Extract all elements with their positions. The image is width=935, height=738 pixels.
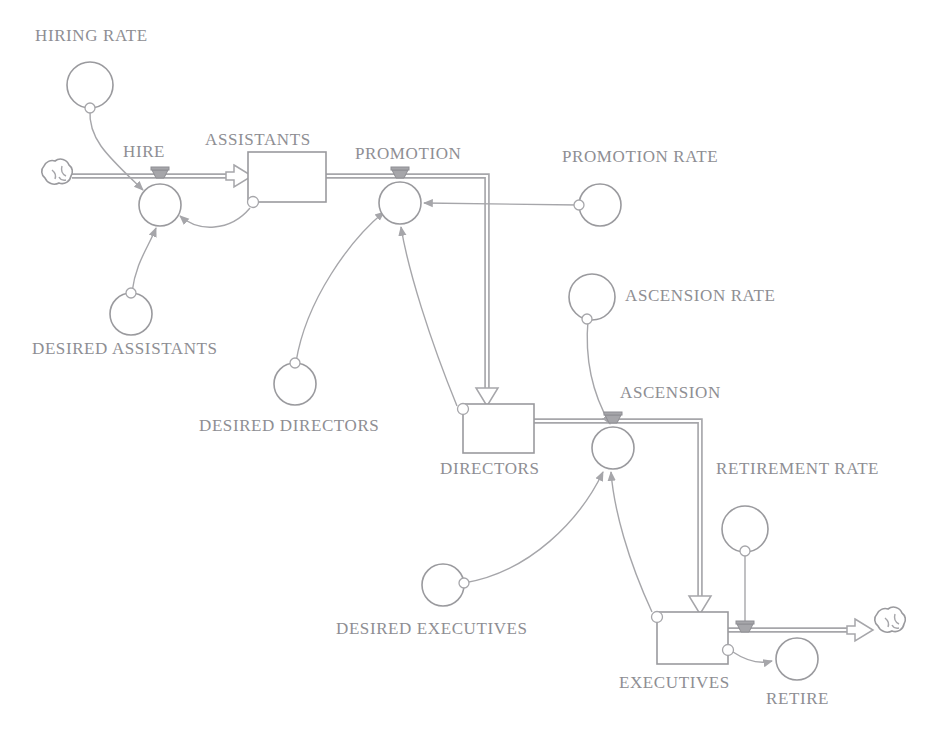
converter-port-desired-assistants	[126, 288, 136, 298]
flow-label-hire: HIRE	[123, 142, 165, 161]
connector-desired-directors-to-promotion	[296, 212, 384, 362]
converter-port-hiring-rate	[85, 103, 95, 113]
converter-label-retirement-rate: RETIREMENT RATE	[716, 459, 879, 478]
stock-directors[interactable]: DIRECTORS	[440, 404, 540, 478]
converter-port-promotion-rate	[574, 200, 584, 210]
converter-label-ascension-rate: ASCENSION RATE	[625, 286, 776, 305]
converter-label-hiring-rate: HIRING RATE	[35, 26, 148, 45]
converter-label-desired-assistants: DESIRED ASSISTANTS	[32, 339, 218, 358]
connector-executives-to-retire	[733, 652, 772, 662]
flow-valve-promotion[interactable]: PROMOTION	[355, 144, 461, 224]
flow-label-ascension: ASCENSION	[620, 383, 721, 402]
flow-valve-hire[interactable]: HIRE	[123, 142, 181, 226]
connector-assistants-to-hire	[180, 208, 250, 227]
converter-desired-assistants[interactable]: DESIRED ASSISTANTS	[32, 288, 218, 358]
converter-retirement-rate[interactable]: RETIREMENT RATE	[716, 459, 879, 556]
converter-ascension-rate[interactable]: ASCENSION RATE	[569, 274, 776, 324]
connector-promotion-rate-to-promotion	[424, 203, 578, 205]
converter-promotion-rate[interactable]: PROMOTION RATE	[562, 147, 718, 226]
converter-port-desired-executives	[459, 578, 469, 588]
stock-assistants[interactable]: ASSISTANTS	[205, 130, 326, 208]
flow-label-promotion: PROMOTION	[355, 144, 461, 163]
converter-desired-executives[interactable]: DESIRED EXECUTIVES	[336, 564, 528, 638]
stock-flow-diagram: ASSISTANTS DIRECTORS EXECUTIVES HIRING R…	[0, 0, 935, 738]
converter-label-promotion-rate: PROMOTION RATE	[562, 147, 718, 166]
connector-directors-to-promotion	[401, 227, 457, 406]
converter-desired-directors[interactable]: DESIRED DIRECTORS	[199, 358, 379, 435]
stock-port-executives-top	[652, 612, 663, 623]
connector-ascension-rate-to-ascension	[587, 320, 610, 424]
stock-executives[interactable]: EXECUTIVES	[619, 612, 734, 692]
stock-port-assistants	[248, 197, 259, 208]
diagram-canvas: ASSISTANTS DIRECTORS EXECUTIVES HIRING R…	[0, 0, 935, 738]
stock-label-assistants: ASSISTANTS	[205, 130, 311, 149]
connector-desired-assistants-to-hire	[132, 228, 156, 292]
flow-arrowhead-sink	[847, 619, 873, 641]
source-cloud	[42, 159, 73, 184]
flow-label-retire: RETIRE	[766, 689, 829, 708]
converter-label-desired-directors: DESIRED DIRECTORS	[199, 416, 379, 435]
converter-port-retirement-rate	[740, 546, 750, 556]
connector-desired-executives-to-ascension	[464, 472, 603, 583]
converter-port-desired-directors	[290, 358, 300, 368]
stock-label-executives: EXECUTIVES	[619, 673, 730, 692]
connector-executives-to-ascension	[611, 472, 652, 612]
converter-hiring-rate[interactable]: HIRING RATE	[35, 26, 148, 113]
converter-label-desired-executives: DESIRED EXECUTIVES	[336, 619, 528, 638]
stock-port-executives-bottom	[723, 645, 734, 656]
stock-label-directors: DIRECTORS	[440, 459, 540, 478]
flow-valve-retire[interactable]: RETIRE	[736, 621, 829, 708]
sink-cloud	[875, 607, 906, 632]
stock-port-directors	[458, 404, 469, 415]
converter-port-ascension-rate	[582, 314, 592, 324]
